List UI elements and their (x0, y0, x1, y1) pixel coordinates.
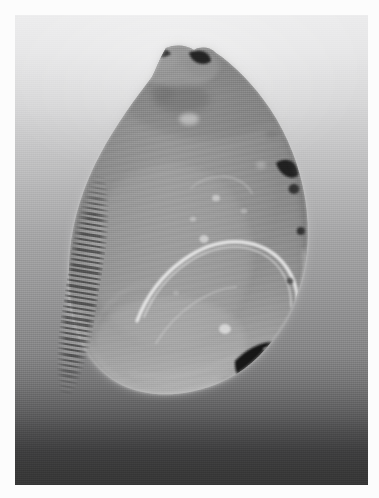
crown-bright-fleck (179, 113, 199, 125)
screenshot-root: single valve of a bivalve shell photogra… (0, 0, 379, 498)
photographic-plate (15, 15, 368, 485)
bivalve-shell-specimen (58, 43, 318, 401)
specimen-layer (15, 15, 368, 485)
